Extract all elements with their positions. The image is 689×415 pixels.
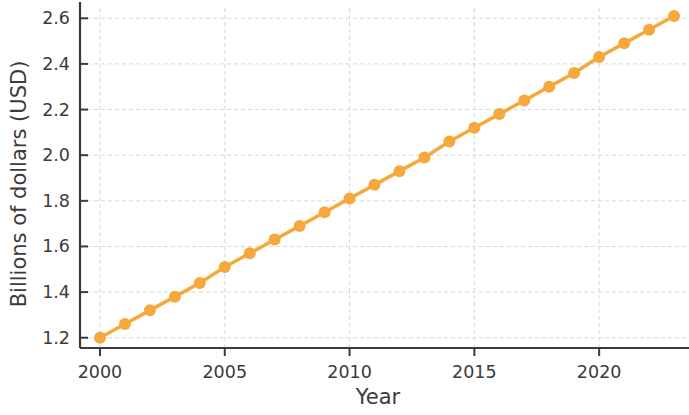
data-point-marker	[643, 24, 655, 36]
data-point-marker	[668, 10, 680, 22]
data-point-marker	[493, 108, 505, 120]
data-point-marker	[468, 122, 480, 134]
y-tick-label: 2.4	[42, 54, 70, 74]
data-point-marker	[344, 193, 356, 205]
data-point-marker	[543, 81, 555, 93]
data-point-marker	[194, 277, 206, 289]
data-point-marker	[418, 151, 430, 163]
x-tick-label: 2010	[327, 362, 372, 382]
line-chart: 1.21.41.61.82.02.22.42.6 200020052010201…	[0, 0, 689, 415]
y-axis-label: Billions of dollars (USD)	[7, 61, 31, 308]
y-tick-label: 1.8	[42, 191, 70, 211]
x-tick-label: 2005	[202, 362, 247, 382]
data-point-marker	[443, 135, 455, 147]
data-point-marker	[393, 165, 405, 177]
data-point-marker	[294, 220, 306, 232]
data-point-marker	[518, 94, 530, 106]
data-point-marker	[568, 67, 580, 79]
y-tick-label: 1.4	[42, 282, 70, 302]
data-point-marker	[244, 247, 256, 259]
y-tick-label: 2.0	[42, 145, 70, 165]
chart-container: 1.21.41.61.82.02.22.42.6 200020052010201…	[0, 0, 689, 415]
data-point-marker	[593, 51, 605, 63]
data-point-marker	[94, 332, 106, 344]
y-tick-label: 2.6	[42, 8, 70, 28]
chart-background	[0, 0, 689, 415]
x-tick-label: 2000	[78, 362, 123, 382]
y-tick-label: 1.6	[42, 236, 70, 256]
data-point-marker	[369, 179, 381, 191]
data-point-marker	[618, 37, 630, 49]
data-point-marker	[144, 304, 156, 316]
data-point-marker	[169, 291, 181, 303]
x-axis-label: Year	[355, 385, 401, 409]
data-point-marker	[319, 206, 331, 218]
y-tick-label: 1.2	[42, 328, 70, 348]
data-point-marker	[269, 234, 281, 246]
data-point-marker	[119, 318, 131, 330]
x-tick-label: 2020	[577, 362, 622, 382]
y-tick-label: 2.2	[42, 100, 70, 120]
data-point-marker	[219, 261, 231, 273]
x-tick-label: 2015	[452, 362, 497, 382]
